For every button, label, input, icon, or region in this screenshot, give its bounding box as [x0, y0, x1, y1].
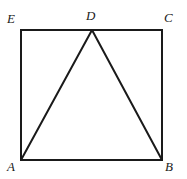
figure-background: [0, 0, 187, 179]
geometry-figure: E D C A B: [0, 0, 187, 179]
vertex-label-e: E: [7, 12, 15, 25]
vertex-label-c: C: [164, 11, 173, 24]
vertex-label-a: A: [7, 160, 15, 173]
vertex-label-b: B: [165, 160, 173, 173]
vertex-label-d: D: [86, 9, 95, 22]
figure-canvas: [0, 0, 187, 179]
